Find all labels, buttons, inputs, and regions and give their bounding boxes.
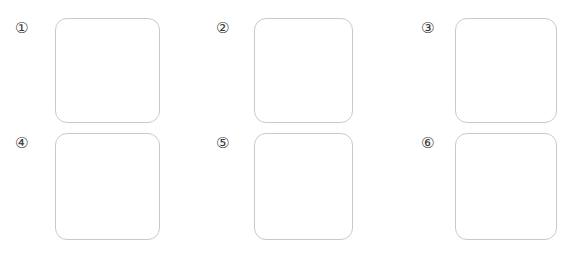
empty-box-5[interactable] [254, 133, 353, 240]
empty-box-4[interactable] [55, 133, 160, 240]
worksheet-canvas: ① ② ③ ④ ⑤ ⑥ [0, 0, 573, 257]
circled-number-1-icon: ① [15, 21, 28, 36]
circled-number-6-icon: ⑥ [421, 136, 434, 151]
circled-number-5-icon: ⑤ [216, 136, 229, 151]
empty-box-3[interactable] [455, 18, 557, 123]
empty-box-6[interactable] [455, 133, 557, 240]
circled-number-4-icon: ④ [15, 136, 28, 151]
empty-box-1[interactable] [55, 18, 160, 123]
circled-number-2-icon: ② [216, 21, 229, 36]
empty-box-2[interactable] [254, 18, 353, 123]
circled-number-3-icon: ③ [421, 21, 434, 36]
